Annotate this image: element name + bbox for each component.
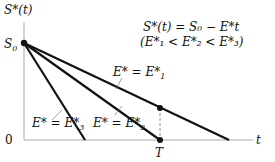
e3-label: E* = E*3 [31,116,84,132]
t-label: T [155,146,164,160]
s0-point [21,40,27,46]
formula-line-1: S*(t) = S₀ − E*t [143,20,240,34]
x-axis-label: t [256,133,261,147]
t-point [157,137,163,143]
e1-label: E* = E*1 [112,65,165,81]
e2-label: E* = E*2 [92,116,145,132]
depletion-diagram: S*(t) S0 0 t T S*(t) = S₀ − E*t (E*₁ < E… [0,0,275,162]
origin-label: 0 [5,133,13,147]
e1-at-t-point [157,105,163,111]
y-axis-label: S*(t) [4,3,33,17]
s0-label: S0 [4,37,17,53]
formula-line-2: (E*₁ < E*₂ < E*₃) [140,35,244,49]
